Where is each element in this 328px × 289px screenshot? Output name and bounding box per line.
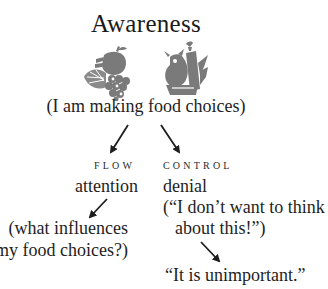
flow-label: FLOW [94,160,135,171]
arrow-to-control [161,125,179,152]
control-term: denial [163,176,207,197]
arrow-attention-to-influences [90,199,107,217]
arrow-to-flow [111,125,128,152]
control-detail-line-1: (“I don’t want to think [163,197,325,218]
control-outcome: “It is unimportant.” [165,265,305,286]
control-detail-line-2: about this!”) [175,218,265,239]
arrow-denial-to-unimportant [201,242,219,261]
flow-term: attention [75,176,138,197]
flow-detail-line-2: my food choices?) [0,240,128,261]
flow-detail-line-1: (what influences [9,218,128,239]
control-label: CONTROL [163,160,233,171]
